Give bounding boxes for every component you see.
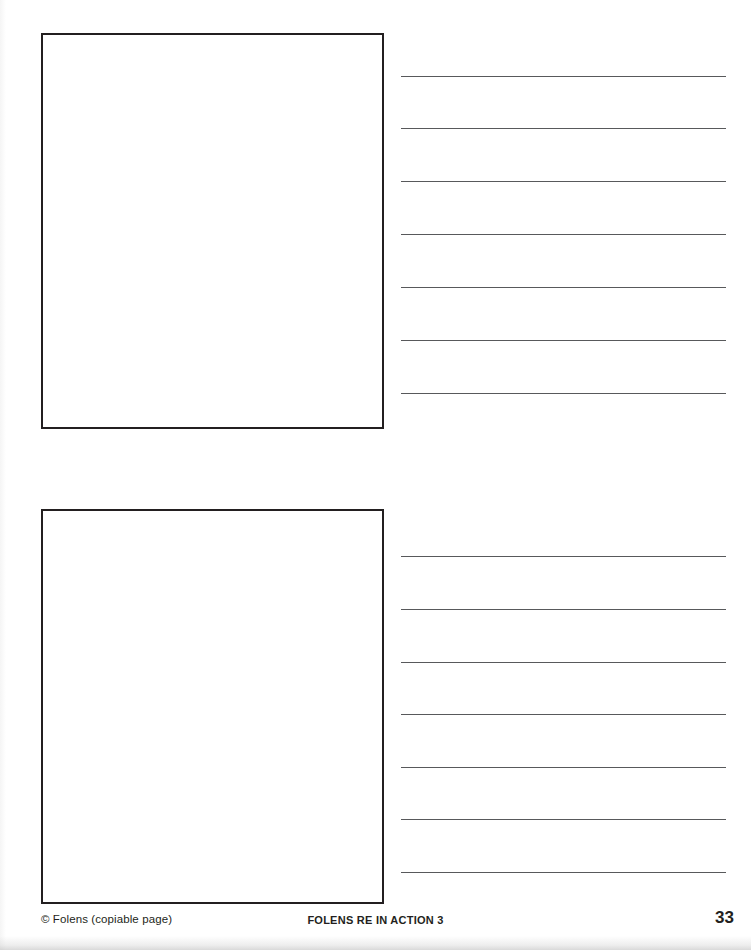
writing-line-1-5[interactable] [401,287,726,288]
drawing-box-2[interactable] [41,509,384,904]
writing-line-2-5[interactable] [401,767,726,768]
writing-line-2-2[interactable] [401,609,726,610]
writing-line-1-3[interactable] [401,181,726,182]
writing-line-2-4[interactable] [401,714,726,715]
drawing-box-1[interactable] [41,33,384,429]
writing-line-1-7[interactable] [401,393,726,394]
writing-line-2-7[interactable] [401,872,726,873]
worksheet-page: © Folens (copiable page) FOLENS RE IN AC… [0,0,751,950]
page-footer: © Folens (copiable page) FOLENS RE IN AC… [0,911,751,935]
writing-line-1-1[interactable] [401,76,726,77]
writing-line-2-1[interactable] [401,556,726,557]
book-title: FOLENS RE IN ACTION 3 [0,912,751,928]
page-number: 33 [715,907,734,929]
writing-line-2-6[interactable] [401,819,726,820]
writing-line-1-4[interactable] [401,234,726,235]
writing-line-1-6[interactable] [401,340,726,341]
page-left-edge-shading [0,0,6,950]
page-bottom-edge-shading [0,936,751,950]
writing-line-1-2[interactable] [401,128,726,129]
writing-line-2-3[interactable] [401,662,726,663]
